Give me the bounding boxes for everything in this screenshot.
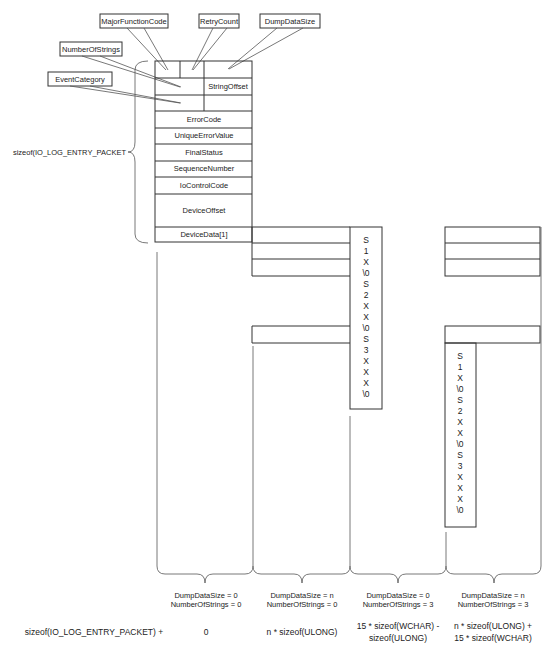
- svg-text:X: X: [457, 373, 463, 383]
- case3-dump: DumpDataSize = 0: [366, 591, 429, 600]
- case-labels: DumpDataSize = 0 NumberOfStrings = 0 Dum…: [171, 591, 529, 609]
- svg-text:3: 3: [458, 461, 463, 471]
- field-error-code: ErrorCode: [187, 115, 222, 124]
- svg-text:1: 1: [364, 246, 369, 256]
- svg-text:S: S: [363, 235, 369, 245]
- svg-text:S: S: [457, 351, 463, 361]
- case3-string-block: S 1 X \0 S 2 X X \0 S 3 X X X \0: [350, 227, 382, 409]
- field-sequence-number: SequenceNumber: [174, 164, 235, 173]
- svg-text:\0: \0: [456, 505, 463, 515]
- size-prefix: sizeof(IO_LOG_ENTRY_PACKET) +: [25, 627, 163, 637]
- case1-size: 0: [204, 627, 209, 637]
- svg-text:2: 2: [458, 406, 463, 416]
- svg-text:\0: \0: [456, 439, 463, 449]
- svg-text:2: 2: [364, 290, 369, 300]
- case2-dump: DumpDataSize = n: [270, 591, 333, 600]
- svg-text:\0: \0: [362, 268, 369, 278]
- field-io-control-code: IoControlCode: [180, 181, 228, 190]
- left-brace-label: sizeof(IO_LOG_ENTRY_PACKET: [13, 148, 127, 157]
- svg-text:X: X: [363, 312, 369, 322]
- svg-text:X: X: [363, 367, 369, 377]
- case2-size: n * sizeof(ULONG): [267, 627, 338, 637]
- svg-text:X: X: [363, 257, 369, 267]
- svg-text:S: S: [457, 450, 463, 460]
- svg-text:1: 1: [458, 362, 463, 372]
- svg-text:X: X: [363, 378, 369, 388]
- svg-text:\0: \0: [362, 389, 369, 399]
- field-final-status: FinalStatus: [185, 148, 223, 157]
- svg-text:EventCategory: EventCategory: [55, 75, 105, 84]
- svg-text:X: X: [363, 301, 369, 311]
- field-unique-error-value: UniqueErrorValue: [174, 131, 233, 140]
- svg-text:X: X: [457, 483, 463, 493]
- field-device-offset: DeviceOffset: [183, 206, 227, 215]
- callout-event-category: EventCategory: [48, 72, 181, 103]
- svg-text:S: S: [363, 279, 369, 289]
- svg-text:\0: \0: [362, 323, 369, 333]
- case1-dump: DumpDataSize = 0: [174, 591, 237, 600]
- field-device-data: DeviceData[1]: [180, 230, 227, 239]
- svg-text:3: 3: [364, 345, 369, 355]
- svg-text:X: X: [363, 356, 369, 366]
- case2-strings: NumberOfStrings = 0: [267, 600, 338, 609]
- svg-text:MajorFunctionCode: MajorFunctionCode: [101, 17, 166, 26]
- io-log-entry-struct: StringOffset ErrorCode UniqueErrorValue …: [155, 61, 252, 242]
- case3-size-line1: 15 * sizeof(WCHAR) -: [357, 621, 440, 631]
- case-dividers: [157, 227, 541, 566]
- case1-strings: NumberOfStrings = 0: [171, 600, 242, 609]
- svg-text:S: S: [363, 334, 369, 344]
- bottom-braces: [157, 566, 541, 583]
- svg-text:RetryCount: RetryCount: [200, 17, 239, 26]
- case2-layout: [252, 227, 350, 343]
- svg-text:X: X: [457, 472, 463, 482]
- case4-strings: NumberOfStrings = 3: [458, 600, 529, 609]
- case4-dump: DumpDataSize = n: [461, 591, 524, 600]
- callout-retry-count: RetryCount: [192, 14, 239, 70]
- case4-size-line1: n * sizeof(ULONG) +: [454, 621, 532, 631]
- size-formulas: sizeof(IO_LOG_ENTRY_PACKET) + 0 n * size…: [25, 621, 532, 643]
- field-string-offset: StringOffset: [208, 82, 248, 91]
- case4-layout: S 1 X \0 S 2 X X \0 S 3 X X X \0: [445, 227, 540, 527]
- svg-text:X: X: [457, 428, 463, 438]
- case3-strings: NumberOfStrings = 3: [363, 600, 434, 609]
- svg-text:X: X: [457, 417, 463, 427]
- io-log-entry-diagram: MajorFunctionCode RetryCount DumpDataSiz…: [0, 0, 557, 650]
- svg-text:\0: \0: [456, 384, 463, 394]
- svg-text:S: S: [457, 395, 463, 405]
- svg-text:X: X: [457, 494, 463, 504]
- case3-size-line2: sizeof(ULONG): [369, 633, 427, 643]
- left-brace: sizeof(IO_LOG_ENTRY_PACKET: [13, 61, 148, 243]
- case4-size-line2: 15 * sizeof(WCHAR): [454, 633, 532, 643]
- svg-text:DumpDataSize: DumpDataSize: [265, 17, 315, 26]
- svg-text:NumberOfStrings: NumberOfStrings: [62, 45, 120, 54]
